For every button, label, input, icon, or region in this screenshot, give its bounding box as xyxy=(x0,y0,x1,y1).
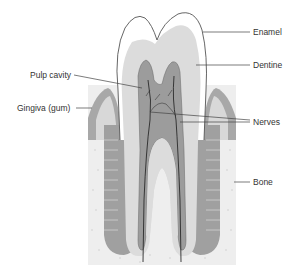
label-gingiva: Gingiva (gum) xyxy=(17,103,70,113)
label-nerves: Nerves xyxy=(253,117,280,127)
label-bone: Bone xyxy=(253,177,273,187)
label-dentine: Dentine xyxy=(253,60,282,70)
tooth-diagram xyxy=(0,0,302,273)
label-enamel: Enamel xyxy=(253,27,282,37)
label-pulp-cavity: Pulp cavity xyxy=(30,70,71,80)
